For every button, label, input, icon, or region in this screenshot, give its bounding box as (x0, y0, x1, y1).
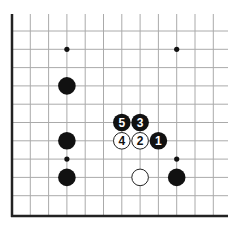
star-point-icon (174, 157, 179, 162)
move-number: 1 (155, 134, 162, 148)
star-point-icon (174, 47, 179, 52)
black-stone-move-5: 5 (113, 114, 131, 132)
black-stone (58, 77, 76, 95)
move-number: 2 (137, 134, 144, 148)
black-stone-move-1: 1 (150, 132, 168, 150)
move-number: 5 (118, 116, 125, 130)
move-number: 3 (137, 116, 144, 130)
white-stone (132, 169, 149, 186)
star-point-icon (64, 47, 69, 52)
black-stone (58, 169, 76, 187)
black-stone-move-3: 3 (131, 114, 149, 132)
move-number: 4 (118, 134, 125, 148)
star-point-icon (64, 157, 69, 162)
black-stone (168, 169, 186, 187)
white-stone-move-2: 2 (132, 133, 149, 150)
black-stone (58, 132, 76, 150)
white-stone-move-4: 4 (114, 133, 131, 150)
go-board: 53421 (0, 0, 236, 230)
